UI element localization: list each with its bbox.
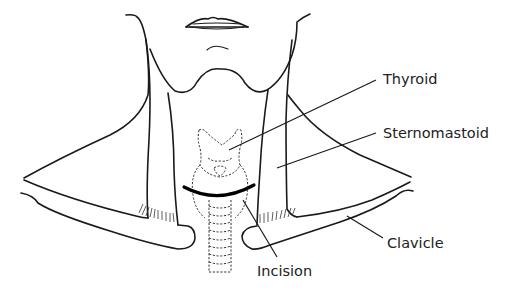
left-muscle-fibers: [139, 204, 174, 222]
clavicle-label: Clavicle: [387, 235, 444, 251]
thyroid-gland: [192, 130, 247, 219]
jaw-line: [150, 14, 310, 92]
lips: [186, 18, 248, 30]
trachea: [209, 200, 231, 272]
jaw-left-upper: [126, 15, 146, 40]
chin-crease: [207, 46, 228, 50]
left-clavicle: [24, 180, 148, 218]
right-muscle-fibers: [260, 208, 295, 223]
clavicle-leader: [347, 216, 383, 238]
right-sternomastoid: [257, 90, 268, 225]
incision-label: Incision: [257, 263, 312, 279]
neck-anatomy-diagram: Thyroid Sternomastoid Clavicle Incision: [0, 0, 509, 295]
thyroid-label: Thyroid: [382, 71, 437, 87]
left-neck-side: [24, 40, 149, 178]
thyroid-leader: [229, 80, 376, 150]
incision-line: [184, 185, 254, 196]
sternomastoid-leader: [277, 133, 376, 168]
right-clavicle: [297, 182, 410, 217]
sternomastoid-label: Sternomastoid: [383, 125, 489, 141]
